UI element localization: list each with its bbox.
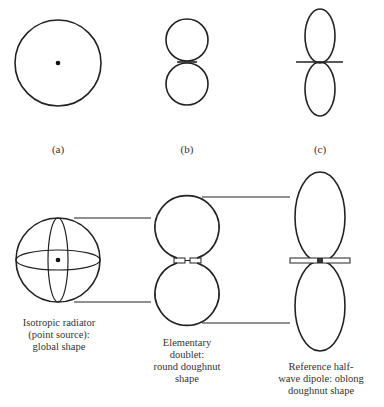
caption-isotropic: Isotropic radiator (point source): globa… — [0, 317, 118, 353]
dipole-pattern-2d — [296, 9, 343, 116]
label-c: (c) — [305, 143, 335, 155]
caption-doublet: Elementary doublet: round doughnut shape — [135, 337, 239, 385]
doublet-pattern-2d — [166, 19, 208, 105]
dipole-doughnut — [290, 172, 350, 351]
label-b: (b) — [172, 143, 202, 155]
doublet-doughnut — [155, 196, 219, 326]
caption-dipole: Reference half- wave dipole: oblong doug… — [262, 361, 380, 397]
isotropic-pattern-2d — [15, 20, 101, 106]
isotropic-sphere — [16, 218, 100, 302]
label-a: (a) — [43, 143, 73, 155]
